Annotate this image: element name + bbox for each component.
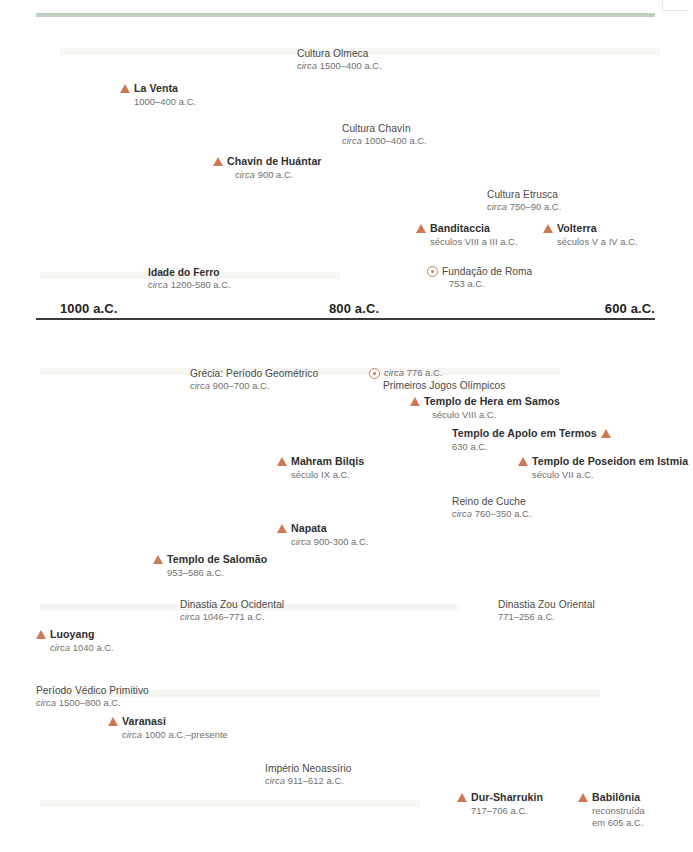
entry-templo-de-poseidon-em-istmia: Templo de Poseidon em Istmia século VII … xyxy=(518,455,688,481)
site-triangle-icon xyxy=(518,457,528,466)
site-triangle-icon xyxy=(416,224,426,233)
entry-dinastia-zou-ocidental: Dinastia Zou Ocidental circa 1046–771 a.… xyxy=(180,598,284,624)
entry-date: circa 900-300 a.C. xyxy=(277,536,368,548)
entry-date: circa 1200-580 a.C. xyxy=(148,279,231,291)
entry-date: circa 776 a.C. xyxy=(384,367,443,379)
entry-date: 630 a.C. xyxy=(452,441,611,453)
entry-date: 717–706 a.C. xyxy=(457,805,543,817)
entry-reino-de-cuche: Reino de Cuche circa 760–350 a.C. xyxy=(452,495,532,521)
entry-templo-de-apolo-em-termos: Templo de Apolo em Termos 630 a.C. xyxy=(452,427,611,453)
entry-title: Dinastia Zou Oriental xyxy=(498,598,595,611)
entry-templo-de-hera-em-samos: Templo de Hera em Samos século VIII a.C. xyxy=(410,395,560,421)
entry-title: Napata xyxy=(291,522,327,536)
entry-cultura-olmeca: Cultura Olmeca circa 1500–400 a.C. xyxy=(297,47,382,73)
entry-date: 1000–400 a.C. xyxy=(120,96,196,108)
entry-title-row: Mahram Bilqis xyxy=(277,455,364,469)
entry-date: 771–256 a.C. xyxy=(498,611,595,623)
entry-title: Império Neoassírio xyxy=(265,762,351,775)
entry-title-row: Chavín de Huántar xyxy=(213,155,322,169)
entry-title-row: Dinastia Zou Ocidental xyxy=(180,598,284,611)
entry-title: Grécia: Período Geométrico xyxy=(190,367,318,380)
axis-tick-800bc: 800 a.C. xyxy=(329,301,379,316)
entry-idade-do-ferro: Idade do Ferro circa 1200-580 a.C. xyxy=(148,266,231,292)
entry-chavin-de-huantar: Chavín de Huántar circa 900 a.C. xyxy=(213,155,322,181)
event-dot-icon xyxy=(369,368,380,379)
site-triangle-icon xyxy=(543,224,553,233)
entry-date: circa 1000 a.C.–presente xyxy=(108,729,228,741)
entry-title-row: Cultura Olmeca xyxy=(297,47,382,60)
entry-title-row: Império Neoassírio xyxy=(265,762,351,775)
entry-date: circa 1500–400 a.C. xyxy=(297,60,382,72)
entry-title: Idade do Ferro xyxy=(148,266,219,279)
entry-title-row: Luoyang xyxy=(36,628,114,642)
site-triangle-icon xyxy=(120,84,130,93)
entry-title: Chavín de Huántar xyxy=(227,155,322,169)
axis-rule xyxy=(36,318,655,320)
site-triangle-icon xyxy=(578,793,588,802)
entry-date: circa 911–612 a.C. xyxy=(265,775,351,787)
entry-title: Babilônia xyxy=(592,791,640,805)
site-triangle-icon xyxy=(36,630,46,639)
entry-date: reconstruída xyxy=(578,805,645,817)
entry-date: circa 750–90 a.C. xyxy=(487,201,561,213)
site-triangle-icon xyxy=(457,793,467,802)
axis-tick-600bc: 600 a.C. xyxy=(605,301,655,316)
site-triangle-icon xyxy=(410,397,420,406)
entry-title-row: Templo de Apolo em Termos xyxy=(452,427,611,441)
entry-date: século IX a.C. xyxy=(277,469,364,481)
entry-dinastia-zou-oriental: Dinastia Zou Oriental 771–256 a.C. xyxy=(498,598,595,624)
entry-title-row: Fundação de Roma xyxy=(427,265,532,278)
event-dot-icon xyxy=(427,266,438,277)
entry-date: séculos V a IV a.C. xyxy=(543,236,638,248)
entry-mahram-bilqis: Mahram Bilqis século IX a.C. xyxy=(277,455,364,481)
entry-cultura-chavin: Cultura Chavín circa 1000–400 a.C. xyxy=(342,122,427,148)
entry-title: Templo de Hera em Samos xyxy=(424,395,560,409)
entry-title: Dinastia Zou Ocidental xyxy=(180,598,284,611)
entry-date: 753 a.C. xyxy=(427,278,532,290)
entry-title: Reino de Cuche xyxy=(452,495,526,508)
timeline-axis: 1000 a.C. 800 a.C. 600 a.C. xyxy=(36,296,655,320)
entry-la-venta: La Venta 1000–400 a.C. xyxy=(120,82,196,108)
page-top-rule xyxy=(36,13,655,17)
entry-title: Cultura Chavín xyxy=(342,122,411,135)
entry-title: Fundação de Roma xyxy=(442,265,532,278)
entry-templo-de-salomao: Templo de Salomão 953–586 a.C. xyxy=(153,553,267,579)
entry-title: Templo de Apolo em Termos xyxy=(452,427,597,441)
entry-title-row: Dinastia Zou Oriental xyxy=(498,598,595,611)
entry-title: Período Védico Primitivo xyxy=(36,684,149,697)
entry-title: Cultura Etrusca xyxy=(487,188,558,201)
page-corner-mark xyxy=(662,0,689,11)
entry-banditaccia: Banditaccia séculos VIII a III a.C. xyxy=(416,222,518,248)
entry-title-row: Babilônia xyxy=(578,791,645,805)
entry-title-row: Banditaccia xyxy=(416,222,518,236)
entry-title-row: Volterra xyxy=(543,222,638,236)
entry-title: La Venta xyxy=(134,82,178,96)
entry-date: circa 1046–771 a.C. xyxy=(180,611,284,623)
entry-varanasi: Varanasi circa 1000 a.C.–presente xyxy=(108,715,228,741)
entry-date: séculos VIII a III a.C. xyxy=(416,236,518,248)
entry-title: Varanasi xyxy=(122,715,166,729)
entry-title-row: Idade do Ferro xyxy=(148,266,231,279)
entry-title: Primeiros Jogos Olímpicos xyxy=(369,379,505,392)
entry-title: Mahram Bilqis xyxy=(291,455,364,469)
entry-date: 953–586 a.C. xyxy=(153,567,267,579)
entry-volterra: Volterra séculos V a IV a.C. xyxy=(543,222,638,248)
entry-date: circa 900 a.C. xyxy=(213,169,322,181)
entry-date: circa 760–350 a.C. xyxy=(452,508,532,520)
axis-tick-1000bc: 1000 a.C. xyxy=(60,301,118,316)
entry-date: circa 900–700 a.C. xyxy=(190,380,318,392)
scan-artifact xyxy=(40,800,420,807)
entry-primeiros-jogos-olimpicos: circa 776 a.C. Primeiros Jogos Olímpicos xyxy=(369,367,505,393)
entry-title-row: Napata xyxy=(277,522,368,536)
entry-date: circa 1000–400 a.C. xyxy=(342,135,427,147)
entry-date: século VIII a.C. xyxy=(410,409,560,421)
site-triangle-icon xyxy=(277,524,287,533)
entry-date: século VII a.C. xyxy=(518,469,688,481)
entry-title: Dur-Sharrukin xyxy=(471,791,543,805)
entry-periodo-vedico-primitivo: Período Védico Primitivo circa 1500–800 … xyxy=(36,684,149,710)
entry-title-row: Varanasi xyxy=(108,715,228,729)
site-triangle-icon xyxy=(153,555,163,564)
entry-title: Templo de Salomão xyxy=(167,553,267,567)
entry-title-row: Templo de Poseidon em Istmia xyxy=(518,455,688,469)
entry-date-second-line: em 605 a.C. xyxy=(578,817,645,829)
